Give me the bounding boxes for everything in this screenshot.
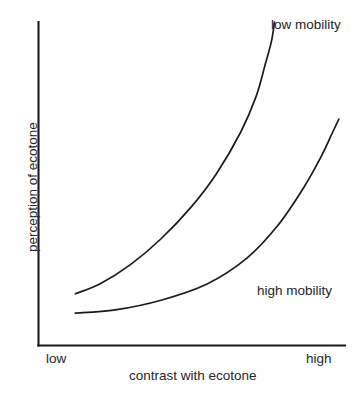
x-axis-tick-low: low — [46, 352, 66, 366]
chart-figure: low mobility high mobility low high cont… — [0, 0, 359, 395]
x-axis-title: contrast with ecotone — [129, 369, 257, 383]
y-axis-title: perception of ecotone — [26, 122, 40, 252]
series-group — [75, 22, 339, 313]
chart-plot-area — [0, 0, 359, 395]
series-label-low-mobility: low mobility — [271, 18, 341, 32]
series-label-high-mobility: high mobility — [257, 284, 332, 298]
series-curve-low-mobility — [75, 22, 274, 294]
x-axis-tick-high: high — [306, 352, 332, 366]
